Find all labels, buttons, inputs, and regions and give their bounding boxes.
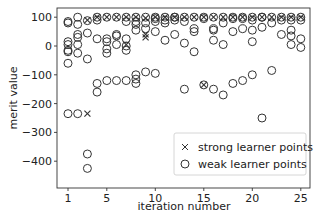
x-tick-label: 1 [65,192,72,205]
y-tick-label: −300 [22,126,52,139]
scatter-chart: 1000−100−200−300−400 1510152025 merit va… [0,0,325,214]
x-tick-label: 20 [245,192,259,205]
legend-weak-label: weak learner points [198,158,307,171]
y-tick-label: −400 [22,155,52,168]
y-tick-label: −200 [22,98,52,111]
y-axis-label: merit value [7,66,20,129]
legend: strong learner points weak learner point… [174,133,313,175]
legend-strong-label: strong learner points [198,141,313,154]
x-tick-label: 25 [294,192,308,205]
y-tick-label: −100 [22,69,52,82]
y-tick-label: 100 [31,11,52,24]
y-axis-ticks: 1000−100−200−300−400 [22,11,57,168]
y-tick-label: 0 [45,40,52,53]
x-tick-label: 5 [103,192,110,205]
x-axis-label: iteration number [138,200,231,213]
